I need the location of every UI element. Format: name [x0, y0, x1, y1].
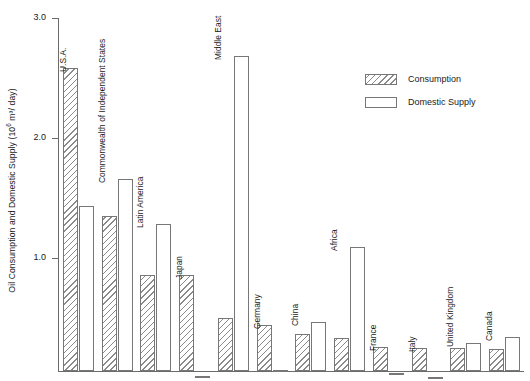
category-label: China [291, 303, 300, 325]
category-label: Canada [485, 312, 494, 342]
y-tick-mark [52, 138, 59, 139]
category-label: Middle East [214, 16, 223, 60]
legend-item: Consumption [365, 72, 515, 87]
bar-consumption [489, 349, 504, 371]
category-label: Africa [330, 229, 339, 251]
category-label: United Kingdom [446, 287, 455, 347]
category-label: Germany [253, 294, 262, 329]
y-tick-mark [52, 18, 59, 19]
x-axis-line [58, 371, 524, 372]
legend-swatch-consumption [365, 74, 397, 85]
bar-domestic-supply [389, 373, 404, 375]
y-axis-title-suffix: m³/ day) [7, 88, 17, 123]
category-label: France [369, 324, 378, 350]
legend-label: Domestic Supply [408, 97, 476, 108]
bar-consumption [102, 216, 117, 371]
category-label: Commonwealth of Independent States [98, 39, 107, 183]
legend-label: Consumption [408, 74, 461, 85]
bar-consumption [334, 338, 349, 371]
bar-domestic-supply [234, 56, 249, 371]
legend: ConsumptionDomestic Supply [365, 72, 515, 118]
legend-item: Domestic Supply [365, 95, 515, 110]
bar-domestic-supply [428, 377, 443, 379]
oil-consumption-bar-chart: Oil Consumption and Domestic Supply (106… [0, 0, 530, 381]
bar-consumption [179, 275, 194, 371]
bar-consumption [295, 334, 310, 371]
bar-domestic-supply [195, 376, 210, 378]
bar-domestic-supply [79, 206, 94, 371]
category-label: Italy [408, 336, 417, 352]
y-tick-label: 2.0 [10, 133, 46, 142]
bar-consumption [140, 275, 155, 371]
y-tick-label: 1.0 [10, 253, 46, 262]
category-label: U.S.A. [59, 48, 68, 73]
bar-domestic-supply [156, 224, 171, 371]
y-tick-label: 3.0 [10, 13, 46, 22]
bar-domestic-supply [118, 179, 133, 371]
bar-consumption [218, 318, 233, 371]
bar-domestic-supply [311, 322, 326, 371]
y-axis-title-exponent: 6 [5, 123, 12, 127]
y-axis-title: Oil Consumption and Domestic Supply (106… [0, 0, 18, 381]
bar-domestic-supply [350, 247, 365, 371]
bar-consumption [450, 348, 465, 371]
legend-swatch-domestic-supply [365, 97, 397, 108]
category-label: Latin America [136, 177, 145, 228]
y-axis-title-prefix: Oil Consumption and Domestic Supply (10 [7, 127, 17, 293]
bar-domestic-supply [466, 343, 481, 371]
bar-consumption [257, 325, 272, 371]
bar-consumption [63, 68, 78, 371]
category-label: Japan [175, 256, 184, 279]
y-tick-mark [52, 258, 59, 259]
bar-domestic-supply [273, 370, 288, 372]
bar-domestic-supply [505, 337, 520, 371]
